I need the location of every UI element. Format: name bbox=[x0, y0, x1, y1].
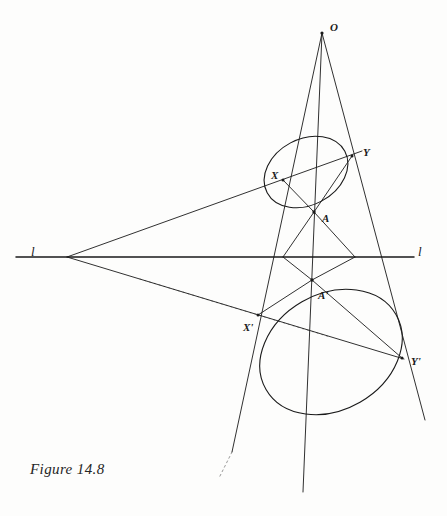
segment-A-Q bbox=[314, 212, 355, 257]
line-O-right-tangent bbox=[322, 33, 425, 420]
line-label-l-right: l bbox=[418, 245, 422, 258]
figure-caption: Figure 14.8 bbox=[30, 461, 105, 478]
segment-Y-A bbox=[314, 156, 352, 212]
geometry-group bbox=[16, 31, 425, 492]
segment-Q-Aprime bbox=[312, 257, 355, 280]
figure-page: O X Y A X' Y' A' l l Figure 14.8 bbox=[0, 0, 447, 516]
node-X bbox=[282, 179, 285, 182]
node-O bbox=[320, 31, 323, 34]
point-label-Y: Y bbox=[363, 147, 370, 158]
point-label-A: A bbox=[322, 213, 329, 224]
line-O-left-tangent-fade bbox=[219, 452, 232, 478]
node-Y bbox=[351, 155, 354, 158]
line-O-left-tangent bbox=[232, 33, 322, 452]
point-label-X-prime: X' bbox=[243, 322, 253, 333]
line-V-to-Y bbox=[67, 151, 362, 257]
segment-A-P bbox=[283, 212, 314, 257]
point-label-O: O bbox=[330, 22, 338, 33]
node-Xprime bbox=[257, 314, 260, 317]
lower-conic bbox=[237, 264, 425, 439]
point-label-Y-prime: Y' bbox=[411, 356, 421, 367]
node-Yprime bbox=[401, 357, 404, 360]
segment-Aprime-Xprime bbox=[258, 280, 312, 315]
segment-P-Aprime bbox=[283, 257, 312, 280]
upper-conic bbox=[252, 122, 361, 222]
line-O-vertical-axis bbox=[303, 33, 322, 492]
node-Aprime bbox=[310, 278, 313, 281]
point-label-A-prime: A' bbox=[318, 290, 328, 301]
figure-drawing bbox=[0, 0, 447, 516]
line-label-l-left: l bbox=[31, 245, 35, 258]
node-A bbox=[312, 210, 315, 213]
point-label-X: X bbox=[271, 170, 278, 181]
